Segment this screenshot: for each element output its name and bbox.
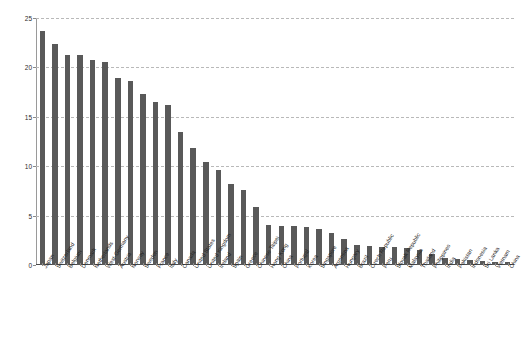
y-tick-label: 20	[25, 64, 32, 71]
y-tick-label: 10	[25, 163, 32, 170]
bar[interactable]	[115, 78, 121, 265]
bar[interactable]	[52, 44, 58, 265]
bar[interactable]	[65, 55, 71, 265]
bar[interactable]	[90, 60, 96, 266]
bar[interactable]	[40, 31, 46, 265]
bar[interactable]	[165, 105, 171, 265]
y-tick-label: 5	[28, 212, 32, 219]
bar[interactable]	[140, 94, 146, 265]
bar[interactable]	[102, 62, 108, 265]
bar[interactable]	[153, 102, 159, 265]
chart-title	[0, 0, 528, 9]
bar-chart: 0510152025 JapanSwitzerlandBelgiumDenmar…	[0, 0, 528, 341]
y-tick-label: 15	[25, 113, 32, 120]
x-axis-labels-group: JapanSwitzerlandBelgiumDenmarkNetherland…	[36, 266, 514, 341]
bar[interactable]	[241, 190, 247, 265]
bars-group	[36, 18, 514, 265]
plot-area: 0510152025	[36, 18, 514, 265]
bar[interactable]	[178, 132, 184, 265]
bar[interactable]	[316, 229, 322, 265]
bar[interactable]	[77, 55, 83, 265]
y-tick-label: 0	[28, 262, 32, 269]
bar[interactable]	[190, 148, 196, 265]
y-tick-label: 25	[25, 15, 32, 22]
